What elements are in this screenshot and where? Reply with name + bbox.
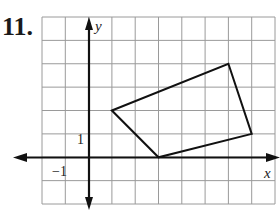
coordinate-graph: y x 1 −1 [0, 0, 280, 213]
x-axis-right-arrow-icon [266, 153, 280, 162]
x-axis-left-arrow-icon [13, 153, 27, 162]
tick-label-y-1: 1 [77, 132, 84, 147]
tick-label-x-neg-1: −1 [52, 164, 67, 179]
y-axis-label: y [93, 18, 102, 34]
grid-lines [42, 17, 275, 204]
y-axis-up-arrow-icon [85, 17, 93, 30]
x-axis-label: x [263, 165, 271, 181]
